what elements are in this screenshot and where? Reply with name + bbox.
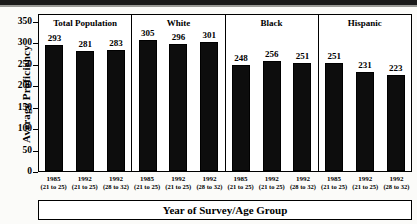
x-tick-age-group: (21 to 25) — [226, 183, 256, 190]
x-tick-year: 1985 — [132, 175, 162, 183]
bar-value-label: 251 — [327, 52, 341, 61]
y-axis-tick-mark — [33, 172, 38, 173]
x-tick-age-group: (28 to 32) — [194, 183, 224, 190]
bar-slot: 296 — [169, 13, 187, 171]
x-tick-label: 1992(28 to 32) — [288, 175, 318, 197]
y-axis-tick-label: 200 — [10, 81, 32, 91]
bar-slot: 251 — [293, 13, 311, 171]
x-tick-year: 1985 — [319, 175, 349, 183]
x-tick-age-group: (28 to 32) — [381, 183, 411, 190]
y-axis-tick-label: 250 — [10, 60, 32, 70]
bar-slot: 305 — [139, 13, 157, 171]
y-axis-tick-label: 50 — [10, 146, 32, 156]
y-axis-tick-label: 100 — [10, 124, 32, 134]
bar-slot: 301 — [200, 13, 218, 171]
bar-slot: 251 — [325, 13, 343, 171]
x-tick-age-group: (21 to 25) — [257, 183, 287, 190]
bar — [139, 40, 157, 171]
y-axis-tick-label: 150 — [10, 103, 32, 113]
bar-slot: 293 — [45, 13, 63, 171]
x-tick-label: 1992(21 to 25) — [70, 175, 100, 197]
y-axis-tick-label: 350 — [10, 17, 32, 27]
x-tick-age-group: (21 to 25) — [350, 183, 380, 190]
x-tick-label: 1992(28 to 32) — [101, 175, 131, 197]
x-tick-label: 1992(21 to 25) — [257, 175, 287, 197]
x-axis-title: Year of Survey/Age Group — [163, 204, 288, 216]
x-tick-age-group: (21 to 25) — [163, 183, 193, 190]
bar-value-label: 305 — [141, 29, 155, 38]
x-tick-group: 1985(21 to 25)1992(21 to 25)1992(28 to 3… — [132, 175, 226, 197]
bar-slot: 256 — [263, 13, 281, 171]
bar-slot: 223 — [387, 13, 405, 171]
x-tick-label: 1992(28 to 32) — [381, 175, 411, 197]
x-tick-age-group: (21 to 25) — [132, 183, 162, 190]
bar-group: 251231223 — [319, 13, 411, 171]
bar — [325, 63, 343, 171]
panel-total-population: Total Population293281283 — [38, 14, 131, 172]
bar-group: 305296301 — [132, 13, 224, 171]
bar-value-label: 231 — [358, 61, 372, 70]
y-axis-tick-label: 300 — [10, 38, 32, 48]
x-tick-group: 1985(21 to 25)1992(21 to 25)1992(28 to 3… — [319, 175, 413, 197]
x-tick-year: 1985 — [226, 175, 256, 183]
bar-slot: 248 — [232, 13, 250, 171]
bar — [263, 61, 281, 171]
x-tick-year: 1992 — [101, 175, 131, 183]
x-tick-year: 1992 — [350, 175, 380, 183]
x-tick-age-group: (28 to 32) — [101, 183, 131, 190]
x-tick-label: 1992(28 to 32) — [194, 175, 224, 197]
bar — [76, 51, 94, 171]
panel-white: White305296301 — [131, 14, 224, 172]
x-axis-tick-labels: 1985(21 to 25)1992(21 to 25)1992(28 to 3… — [38, 175, 412, 197]
x-tick-year: 1992 — [381, 175, 411, 183]
x-tick-year: 1992 — [194, 175, 224, 183]
bar-slot: 231 — [356, 13, 374, 171]
panel-hispanic: Hispanic251231223 — [318, 14, 412, 172]
x-axis-title-box: Year of Survey/Age Group — [38, 200, 412, 220]
bar — [169, 44, 187, 171]
bar-group: 293281283 — [39, 13, 131, 171]
x-tick-age-group: (21 to 25) — [319, 183, 349, 190]
plot-panels: Total Population293281283White305296301B… — [38, 14, 412, 172]
x-tick-year: 1992 — [163, 175, 193, 183]
x-tick-group: 1985(21 to 25)1992(21 to 25)1992(28 to 3… — [225, 175, 319, 197]
bar-value-label: 301 — [202, 31, 216, 40]
bar-value-label: 281 — [78, 40, 92, 49]
bar — [200, 42, 218, 171]
y-axis-tick-label: 0 — [10, 167, 32, 177]
bar — [107, 50, 125, 171]
x-tick-group: 1985(21 to 25)1992(21 to 25)1992(28 to 3… — [38, 175, 132, 197]
x-tick-label: 1992(21 to 25) — [163, 175, 193, 197]
x-tick-label: 1985(21 to 25) — [132, 175, 162, 197]
x-tick-label: 1985(21 to 25) — [39, 175, 69, 197]
x-tick-year: 1992 — [70, 175, 100, 183]
x-tick-age-group: (21 to 25) — [39, 183, 69, 190]
bar — [232, 65, 250, 171]
bar-value-label: 248 — [234, 54, 248, 63]
x-tick-year: 1985 — [39, 175, 69, 183]
bar-value-label: 293 — [48, 34, 62, 43]
bar-value-label: 223 — [389, 64, 403, 73]
chart-screenshot: Average Proficiency 05010015020025030035… — [0, 0, 417, 224]
x-tick-year: 1992 — [288, 175, 318, 183]
bar — [356, 72, 374, 171]
panel-black: Black248256251 — [225, 14, 318, 172]
x-tick-year: 1992 — [257, 175, 287, 183]
bar-slot: 283 — [107, 13, 125, 171]
bar-value-label: 296 — [172, 33, 186, 42]
bar-value-label: 256 — [265, 50, 279, 59]
x-tick-label: 1992(21 to 25) — [350, 175, 380, 197]
scan-artifact-band-fade — [0, 5, 417, 7]
bar-group: 248256251 — [226, 13, 318, 171]
x-tick-label: 1985(21 to 25) — [319, 175, 349, 197]
bar — [45, 45, 63, 171]
bar — [293, 63, 311, 171]
bar-value-label: 283 — [109, 39, 123, 48]
bar-value-label: 251 — [296, 52, 310, 61]
bar — [387, 75, 405, 171]
x-tick-age-group: (21 to 25) — [70, 183, 100, 190]
bar-slot: 281 — [76, 13, 94, 171]
x-tick-label: 1985(21 to 25) — [226, 175, 256, 197]
x-tick-age-group: (28 to 32) — [288, 183, 318, 190]
